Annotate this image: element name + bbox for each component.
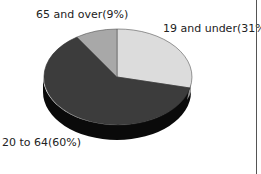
border-line xyxy=(256,0,257,174)
label-20-to-64: 20 to 64(60%) xyxy=(2,136,81,149)
label-19-and-under: 19 and under(31%) xyxy=(163,22,261,35)
pie-chart: 65 and over(9%) 19 and under(31%) 20 to … xyxy=(0,0,261,174)
label-65-and-over: 65 and over(9%) xyxy=(36,8,128,21)
